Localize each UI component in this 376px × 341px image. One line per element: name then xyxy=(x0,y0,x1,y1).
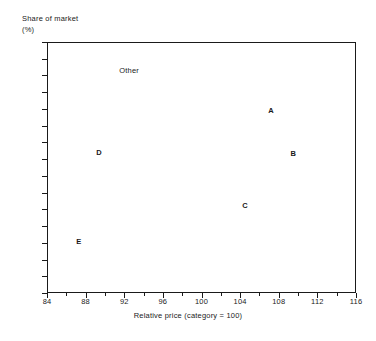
y-tick-mark xyxy=(42,176,47,177)
x-minor-tick-mark xyxy=(182,293,183,296)
y-tick-mark xyxy=(42,209,47,210)
y-tick-mark xyxy=(42,243,47,244)
y-tick-mark xyxy=(42,126,47,127)
x-tick-mark xyxy=(317,293,318,298)
data-point-label: E xyxy=(76,237,81,246)
x-tick-label: 96 xyxy=(148,297,178,306)
x-tick-label: 100 xyxy=(187,297,217,306)
y-tick-mark xyxy=(42,75,47,76)
y-tick-mark xyxy=(42,42,47,43)
scatter-chart: Share of market (%) 02468101214161820222… xyxy=(0,0,376,341)
y-tick-mark xyxy=(42,260,47,261)
y-axis-unit: (%) xyxy=(22,24,34,35)
x-tick-label: 92 xyxy=(109,297,139,306)
y-tick-mark xyxy=(42,92,47,93)
x-tick-mark xyxy=(356,293,357,298)
data-point-label: A xyxy=(268,105,274,114)
x-axis-title: Relative price (category = 100) xyxy=(0,311,376,320)
x-tick-mark xyxy=(240,293,241,298)
y-tick-mark xyxy=(42,159,47,160)
y-tick-mark xyxy=(42,226,47,227)
x-minor-tick-mark xyxy=(105,293,106,296)
plot-area xyxy=(47,42,356,293)
data-point-label: B xyxy=(290,149,296,158)
x-minor-tick-mark xyxy=(259,293,260,296)
x-tick-mark xyxy=(86,293,87,298)
data-point-label: Other xyxy=(119,65,139,74)
x-tick-label: 88 xyxy=(71,297,101,306)
x-minor-tick-mark xyxy=(221,293,222,296)
y-axis-title: Share of market xyxy=(22,13,78,24)
y-tick-mark xyxy=(42,59,47,60)
y-tick-mark xyxy=(42,109,47,110)
data-point-label: C xyxy=(242,201,248,210)
y-tick-mark xyxy=(42,193,47,194)
x-minor-tick-mark xyxy=(337,293,338,296)
x-tick-mark xyxy=(124,293,125,298)
x-minor-tick-mark xyxy=(144,293,145,296)
x-minor-tick-mark xyxy=(66,293,67,296)
x-tick-label: 84 xyxy=(32,297,62,306)
x-tick-mark xyxy=(47,293,48,298)
x-tick-mark xyxy=(163,293,164,298)
x-tick-label: 104 xyxy=(225,297,255,306)
x-minor-tick-mark xyxy=(298,293,299,296)
y-tick-mark xyxy=(42,142,47,143)
x-tick-label: 116 xyxy=(341,297,371,306)
x-tick-mark xyxy=(279,293,280,298)
x-tick-label: 112 xyxy=(302,297,332,306)
data-point-label: D xyxy=(96,147,102,156)
x-tick-mark xyxy=(202,293,203,298)
y-tick-mark xyxy=(42,276,47,277)
x-tick-label: 108 xyxy=(264,297,294,306)
